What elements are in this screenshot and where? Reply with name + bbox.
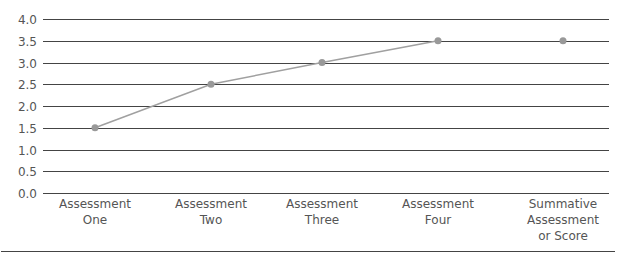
x-category-label: AssessmentThree — [267, 196, 377, 228]
y-tick-label: 4.0 — [18, 13, 37, 27]
x-category-label-line: Assessment — [508, 212, 618, 228]
data-point-marker — [319, 59, 326, 66]
x-category-label: AssessmentOne — [40, 196, 150, 228]
y-tick-label: 2.0 — [18, 100, 37, 114]
y-tick-label: 1.5 — [18, 122, 37, 136]
x-category-label-line: One — [40, 212, 150, 228]
y-tick-label: 1.0 — [18, 144, 37, 158]
x-category-label-line: Two — [156, 212, 266, 228]
data-point-marker — [435, 37, 442, 44]
x-category-label-line: Assessment — [156, 196, 266, 212]
x-category-label: AssessmentFour — [383, 196, 493, 228]
data-point-marker — [208, 81, 215, 88]
x-category-label-line: Summative — [508, 196, 618, 212]
y-tick-label: 0.5 — [18, 165, 37, 179]
y-tick-label: 2.5 — [18, 78, 37, 92]
x-category-label-line: Assessment — [383, 196, 493, 212]
y-tick-label: 3.5 — [18, 35, 37, 49]
y-axis-ticks: 0.00.51.01.52.02.53.03.54.0 — [18, 13, 37, 201]
x-category-label-line: Assessment — [267, 196, 377, 212]
y-tick-label: 3.0 — [18, 57, 37, 71]
y-tick-label: 0.0 — [18, 187, 37, 201]
data-point-marker — [92, 124, 99, 131]
x-category-label: SummativeAssessmentor Score — [508, 196, 618, 244]
data-point-marker — [560, 37, 567, 44]
x-category-label-line: Four — [383, 212, 493, 228]
x-category-label-line: Three — [267, 212, 377, 228]
x-category-label: AssessmentTwo — [156, 196, 266, 228]
gridlines — [43, 20, 609, 194]
x-category-label-line: or Score — [508, 228, 618, 244]
bottom-rule — [1, 251, 615, 252]
x-category-label-line: Assessment — [40, 196, 150, 212]
